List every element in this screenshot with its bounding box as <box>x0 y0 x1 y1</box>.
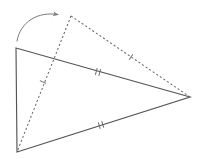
original-triangle <box>16 48 190 152</box>
geometry-diagram <box>0 0 204 159</box>
rotation-arrow-curve <box>17 14 58 41</box>
rotated-triangle-left-edge <box>17 16 71 152</box>
original-triangle-outline <box>16 48 190 152</box>
geometry-canvas <box>0 0 204 159</box>
tick-dashed-upper <box>129 54 133 60</box>
rotation-arrow <box>17 14 58 41</box>
rotated-triangle-upper-edge <box>71 16 190 97</box>
tick-solid-top <box>95 68 100 76</box>
rotated-triangle <box>17 16 190 152</box>
